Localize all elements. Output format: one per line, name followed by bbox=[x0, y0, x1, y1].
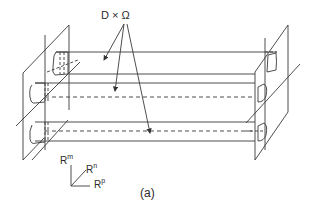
subfigure-label: (a) bbox=[140, 186, 155, 200]
axis-sup: n bbox=[93, 162, 97, 169]
right-plane bbox=[246, 25, 300, 160]
upper-channel bbox=[30, 52, 277, 103]
d-times-omega-label: D × Ω bbox=[101, 9, 130, 21]
axis-label-rn: Rn bbox=[86, 163, 97, 175]
axis-label-rm: Rm bbox=[60, 154, 73, 166]
diagram-canvas bbox=[0, 0, 311, 211]
axis-sup: m bbox=[67, 153, 73, 160]
axis-sup: p bbox=[101, 177, 105, 184]
axis-label-rp: Rp bbox=[94, 178, 105, 190]
annotation-arrows bbox=[104, 24, 150, 133]
